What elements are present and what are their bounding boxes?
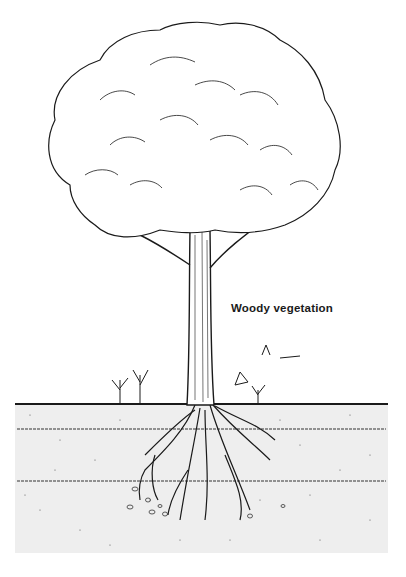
tree-canopy — [49, 22, 340, 237]
tree-illustration — [0, 0, 406, 577]
woody-vegetation-label: Woody vegetation — [231, 302, 333, 314]
soil-layer — [15, 403, 388, 553]
illustration-canvas: Woody vegetation — [0, 0, 406, 577]
